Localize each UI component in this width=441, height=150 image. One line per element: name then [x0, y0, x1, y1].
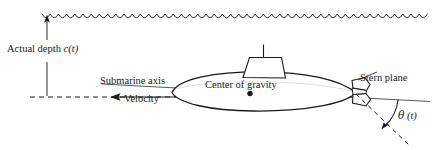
label-theta-angle: θ (t)	[398, 110, 417, 122]
label-submarine-axis: Submarine axis	[100, 76, 165, 87]
submarine-diagram: Actual depth c(t) Submarine axis Velocit…	[0, 0, 441, 150]
label-actual-depth-text: Actual depth	[7, 43, 64, 54]
label-actual-depth: Actual depth c(t)	[7, 44, 78, 55]
depth-arrow-icon	[44, 15, 50, 97]
label-velocity: Velocity	[124, 94, 159, 105]
center-of-gravity-marker	[247, 91, 252, 96]
theta-argument: (t)	[404, 110, 417, 121]
label-stern-plane: Stern plane	[360, 73, 408, 84]
theta-angle-arc	[382, 100, 399, 130]
conning-tower	[243, 58, 286, 79]
label-center-of-gravity: Center of gravity	[205, 80, 277, 91]
water-surface-icon	[42, 14, 427, 18]
label-actual-depth-variable: c(t)	[64, 43, 79, 54]
